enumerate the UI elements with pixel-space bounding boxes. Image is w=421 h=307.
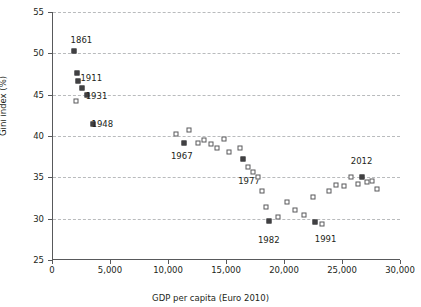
y-tick-label: 35 <box>0 172 44 182</box>
x-tick-label: 5,000 <box>98 265 122 275</box>
y-tick-label: 45 <box>0 90 44 100</box>
axes-layer: 2530354045505505,00010,00015,00020,00025… <box>0 0 421 307</box>
y-tick-mark <box>48 95 52 96</box>
y-tick-mark <box>48 12 52 13</box>
y-tick-label: 40 <box>0 131 44 141</box>
x-tick-mark <box>110 260 111 264</box>
y-tick-mark <box>48 219 52 220</box>
x-tick-label: 20,000 <box>269 265 299 275</box>
x-tick-mark <box>400 260 401 264</box>
y-tick-label: 50 <box>0 48 44 58</box>
x-tick-mark <box>168 260 169 264</box>
x-tick-label: 30,000 <box>385 265 415 275</box>
scatter-chart: Gini index (%) GDP per capita (Euro 2010… <box>0 0 421 307</box>
x-tick-mark <box>52 260 53 264</box>
x-tick-mark <box>226 260 227 264</box>
x-tick-mark <box>342 260 343 264</box>
x-tick-mark <box>284 260 285 264</box>
x-tick-label: 10,000 <box>153 265 183 275</box>
x-tick-label: 25,000 <box>327 265 357 275</box>
x-tick-label: 15,000 <box>211 265 241 275</box>
y-tick-mark <box>48 136 52 137</box>
y-tick-label: 55 <box>0 7 44 17</box>
y-tick-label: 25 <box>0 255 44 265</box>
y-tick-label: 30 <box>0 214 44 224</box>
x-tick-label: 0 <box>49 265 54 275</box>
y-tick-mark <box>48 177 52 178</box>
y-tick-mark <box>48 53 52 54</box>
